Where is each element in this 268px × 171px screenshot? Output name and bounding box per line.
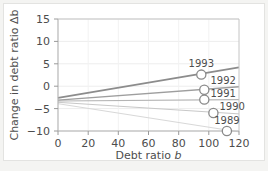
data-label-1993: 1993 — [189, 58, 214, 69]
ytick-label-neg5: −5 — [34, 103, 50, 116]
ytick-label-5: 5 — [43, 58, 50, 71]
y-axis-tick-labels: 15 10 5 0 −5 −10 — [27, 13, 50, 138]
figure-canvas: 15 10 5 0 −5 −10 0 20 40 60 80 100 120 D… — [3, 3, 265, 161]
ytick-label-10: 10 — [36, 35, 50, 48]
xtick-label-20: 20 — [81, 137, 95, 150]
x-axis-title-symbol: b — [174, 149, 181, 160]
data-point-1992[interactable] — [200, 85, 209, 94]
data-point-1991[interactable] — [200, 95, 209, 104]
ytick-label-neg10: −10 — [27, 125, 50, 138]
data-point-1989[interactable] — [222, 126, 231, 135]
data-label-1991: 1991 — [211, 88, 236, 99]
data-label-1992: 1992 — [211, 75, 236, 86]
data-point-1993[interactable] — [197, 70, 206, 79]
xtick-label-100: 100 — [198, 137, 219, 150]
xtick-label-120: 120 — [229, 137, 250, 150]
debt-ratio-scatter-chart: 15 10 5 0 −5 −10 0 20 40 60 80 100 120 D… — [4, 4, 264, 160]
x-axis-title: Debt ratio b — [116, 149, 182, 160]
y-axis-ticks — [54, 19, 58, 131]
figure-container: 15 10 5 0 −5 −10 0 20 40 60 80 100 120 D… — [0, 0, 268, 171]
x-axis-title-text: Debt ratio — [116, 149, 175, 160]
x-axis-ticks — [58, 131, 239, 135]
xtick-label-0: 0 — [55, 137, 62, 150]
y-axis-title-symbol: Δb — [8, 9, 21, 24]
data-label-1989: 1989 — [214, 115, 239, 126]
ytick-label-15: 15 — [36, 13, 50, 26]
data-label-1990: 1990 — [220, 101, 245, 112]
y-axis-title: Change in debt ratio Δb — [8, 9, 21, 140]
ytick-label-0: 0 — [43, 80, 50, 93]
y-axis-title-text: Change in debt ratio — [8, 24, 21, 141]
